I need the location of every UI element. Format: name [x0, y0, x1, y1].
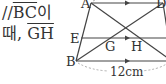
label-d: D	[156, 0, 166, 13]
label-b: B	[66, 53, 76, 71]
label-e: E	[70, 30, 80, 48]
measure-label: 12cm	[110, 63, 143, 81]
label-g: G	[105, 38, 115, 56]
label-a: A	[81, 0, 90, 13]
label-h: H	[131, 38, 142, 56]
